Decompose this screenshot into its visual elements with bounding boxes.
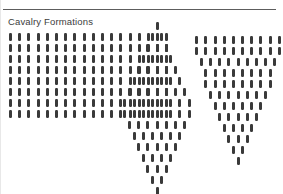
formation-row <box>111 44 203 55</box>
cavalry-unit-mark <box>151 33 154 41</box>
cavalry-unit-mark <box>250 102 253 110</box>
cavalry-unit-mark <box>151 77 154 85</box>
cavalry-unit-mark <box>83 33 86 41</box>
cavalry-unit-mark <box>223 36 226 44</box>
cavalry-unit-mark <box>18 55 21 63</box>
cavalry-unit-mark <box>165 121 168 129</box>
cavalry-unit-mark <box>227 113 230 121</box>
cavalry-unit-mark <box>151 132 154 140</box>
cavalry-unit-mark <box>156 44 159 52</box>
cavalry-unit-mark <box>218 113 221 121</box>
cavalry-unit-mark <box>73 88 76 96</box>
cavalry-unit-mark <box>83 66 86 74</box>
cavalry-formations-figure: Cavalry Formations <box>0 0 283 194</box>
cavalry-unit-mark <box>133 77 136 85</box>
cavalry-unit-mark <box>250 124 253 132</box>
cavalry-unit-mark <box>83 44 86 52</box>
cavalry-unit-mark <box>46 44 49 52</box>
cavalry-unit-mark <box>101 99 104 107</box>
cavalry-unit-mark <box>64 88 67 96</box>
cavalry-unit-mark <box>204 36 207 44</box>
cavalry-unit-mark <box>18 33 21 41</box>
cavalry-unit-mark <box>37 33 40 41</box>
cavalry-unit-mark <box>178 77 181 85</box>
cavalry-unit-mark <box>188 99 191 107</box>
cavalry-unit-mark <box>73 44 76 52</box>
cavalry-unit-mark <box>18 99 21 107</box>
formation-row <box>111 110 203 121</box>
cavalry-unit-mark <box>223 80 226 88</box>
cavalry-unit-mark <box>9 88 12 96</box>
formation-row <box>195 146 281 157</box>
cavalry-unit-mark <box>9 44 12 52</box>
cavalry-unit-mark <box>37 88 40 96</box>
cavalry-unit-mark <box>137 88 140 96</box>
cavalry-unit-mark <box>73 99 76 107</box>
page-title: Cavalry Formations <box>8 16 93 27</box>
cavalry-unit-mark <box>64 55 67 63</box>
cavalry-unit-mark <box>223 124 226 132</box>
cavalry-unit-mark <box>142 77 145 85</box>
cavalry-unit-mark <box>27 33 30 41</box>
cavalry-unit-mark <box>27 110 30 118</box>
formation-row <box>111 77 203 88</box>
cavalry-unit-mark <box>46 66 49 74</box>
cavalry-unit-mark <box>9 66 12 74</box>
cavalry-unit-mark <box>178 132 181 140</box>
cavalry-unit-mark <box>241 80 244 88</box>
cavalry-unit-mark <box>174 88 177 96</box>
cavalry-unit-mark <box>178 110 181 118</box>
cavalry-unit-mark <box>169 55 172 63</box>
cavalry-unit-mark <box>156 66 159 74</box>
cavalry-unit-mark <box>232 146 235 154</box>
cavalry-unit-mark <box>156 88 159 96</box>
cavalry-unit-mark <box>46 110 49 118</box>
cavalry-unit-mark <box>250 36 253 44</box>
cavalry-unit-mark <box>146 66 149 74</box>
formation-row <box>195 36 281 47</box>
cavalry-unit-mark <box>169 110 172 118</box>
cavalry-unit-mark <box>241 69 244 77</box>
cavalry-unit-mark <box>101 88 104 96</box>
cavalry-unit-mark <box>37 77 40 85</box>
cavalry-unit-mark <box>128 121 131 129</box>
cavalry-unit-mark <box>160 77 163 85</box>
cavalry-unit-mark <box>37 55 40 63</box>
cavalry-unit-mark <box>9 55 12 63</box>
cavalry-unit-mark <box>37 110 40 118</box>
cavalry-unit-mark <box>137 143 140 151</box>
formation-row <box>195 58 281 69</box>
cavalry-unit-mark <box>174 66 177 74</box>
cavalry-unit-mark <box>151 55 154 63</box>
cavalry-unit-mark <box>146 88 149 96</box>
cavalry-unit-mark <box>278 36 281 44</box>
formation-row <box>111 165 203 176</box>
cavalry-unit-mark <box>83 110 86 118</box>
cavalry-unit-mark <box>278 47 281 55</box>
cavalry-unit-mark <box>269 47 272 55</box>
cavalry-unit-mark <box>160 33 163 41</box>
formation-row <box>111 121 203 132</box>
cavalry-unit-mark <box>92 66 95 74</box>
cavalry-unit-mark <box>237 58 240 66</box>
cavalry-unit-mark <box>83 77 86 85</box>
cavalry-unit-mark <box>27 55 30 63</box>
cavalry-unit-mark <box>204 69 207 77</box>
formation-row <box>195 91 281 102</box>
formation-row <box>195 69 281 80</box>
cavalry-unit-mark <box>146 44 149 52</box>
cavalry-unit-mark <box>64 66 67 74</box>
cavalry-unit-mark <box>9 77 12 85</box>
cavalry-unit-mark <box>237 113 240 121</box>
formation-row <box>195 102 281 113</box>
cavalry-unit-mark <box>165 66 168 74</box>
formation-row <box>111 22 203 33</box>
cavalry-unit-mark <box>46 99 49 107</box>
cavalry-unit-mark <box>142 110 145 118</box>
cavalry-unit-mark <box>64 44 67 52</box>
cavalry-unit-mark <box>246 135 249 143</box>
cavalry-unit-mark <box>92 55 95 63</box>
cavalry-unit-mark <box>55 33 58 41</box>
cavalry-unit-mark <box>178 99 181 107</box>
formation-row <box>111 143 203 154</box>
